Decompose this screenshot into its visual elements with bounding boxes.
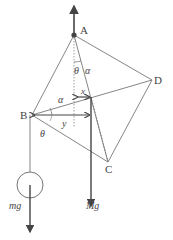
label-theta-top: θ: [74, 65, 79, 76]
label-alpha-mid: α: [58, 94, 64, 105]
vertex-A-dot: [71, 32, 76, 37]
label-A: A: [80, 24, 88, 36]
label-D: D: [154, 74, 162, 86]
label-B: B: [20, 109, 27, 121]
label-y: y: [61, 118, 67, 129]
label-mg: mg: [9, 200, 21, 211]
label-C: C: [105, 163, 112, 175]
label-Mg: Mg: [85, 200, 99, 211]
tetrahedron-diagram: A D B C θ α α x y θ mg Mg: [0, 0, 173, 240]
label-alpha-top: α: [85, 65, 91, 76]
theta-arc-top: [74, 61, 81, 62]
label-x: x: [80, 86, 85, 96]
label-theta-bottom: θ: [40, 128, 45, 139]
tetrahedron-edges: [32, 35, 152, 162]
